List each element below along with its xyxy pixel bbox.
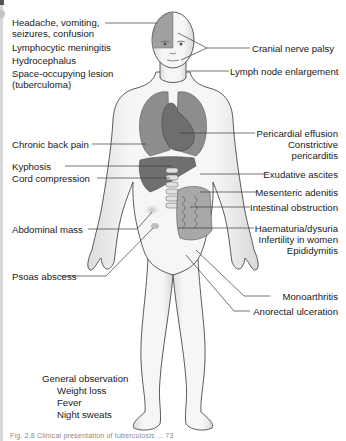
- figure-caption: Fig. 2.8 Clinical presentation of tuberc…: [10, 432, 174, 439]
- label-line: Infertility in women: [255, 234, 338, 245]
- label-lymph-node: Lymph node enlargement: [230, 66, 338, 77]
- psoas-lesion: [151, 223, 159, 229]
- label-kyphosis: Kyphosis: [12, 161, 51, 172]
- label-psoas-abscess: Psoas abscess: [12, 271, 77, 282]
- label-back-pain: Chronic back pain: [12, 139, 89, 150]
- label-cord-compression: Cord compression: [12, 173, 90, 184]
- label-hydrocephalus: Hydrocephalus: [12, 55, 76, 66]
- brain-lesion: [153, 13, 173, 48]
- label-cranial-nerve: Cranial nerve palsy: [252, 43, 334, 54]
- label-ascites: Exudative ascites: [263, 169, 338, 180]
- label-monoarthritis: Monoarthritis: [283, 291, 338, 302]
- general-item-fever: Fever: [57, 397, 82, 408]
- label-line: Space-occupying lesion: [12, 68, 113, 79]
- label-mesenteric: Mesenteric adenitis: [255, 187, 338, 198]
- label-haematuria: Haematuria/dysuria Infertility in women …: [255, 223, 338, 256]
- general-observation-title: General observation: [42, 373, 128, 384]
- label-abdominal-mass: Abdominal mass: [12, 224, 83, 235]
- label-line: Constrictive: [257, 139, 338, 150]
- label-space-occupying: Space-occupying lesion (tuberculoma): [12, 68, 113, 90]
- label-line: Headache, vomiting,: [12, 17, 99, 28]
- general-item-weight-loss: Weight loss: [57, 385, 106, 396]
- label-headache: Headache, vomiting, seizures, confusion: [12, 17, 99, 39]
- general-item-night-sweats: Night sweats: [57, 409, 112, 420]
- intestines: [177, 186, 212, 240]
- label-intestinal: Intestinal obstruction: [250, 202, 338, 213]
- label-anorectal: Anorectal ulceration: [253, 306, 338, 317]
- label-pericardial: Pericardial effusion Constrictive perica…: [257, 128, 338, 161]
- label-line: seizures, confusion: [12, 28, 99, 39]
- label-meningitis: Lymphocytic meningitis: [12, 42, 111, 53]
- abdominal-mass-lesion: [144, 204, 160, 216]
- label-line: pericarditis: [257, 150, 338, 161]
- label-line: Haematuria/dysuria: [255, 223, 338, 234]
- label-line: Pericardial effusion: [257, 128, 338, 139]
- label-line: (tuberculoma): [12, 79, 113, 90]
- label-line: Epididymitis: [255, 245, 338, 256]
